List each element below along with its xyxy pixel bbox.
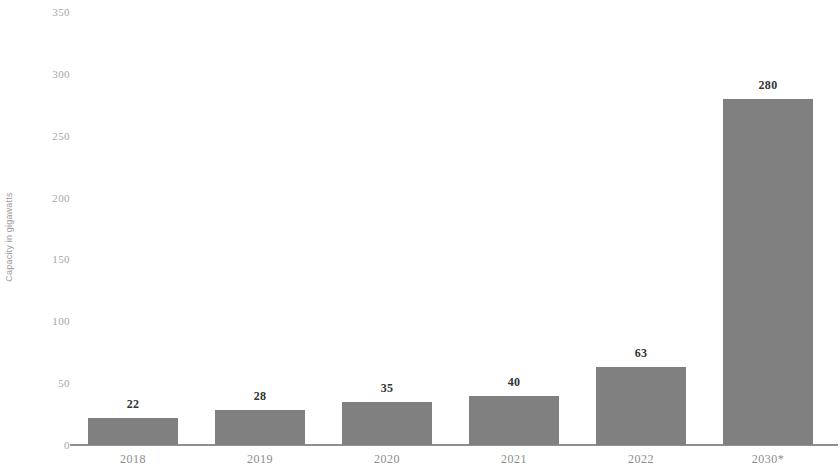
bar-2021[interactable] [469, 396, 559, 445]
bar-2020[interactable] [342, 402, 432, 445]
y-axis-tick-150: 150 [22, 253, 70, 265]
bar-value-label-2021: 40 [469, 375, 559, 390]
plot-area: 2228354063280 201820192020202120222030* [70, 0, 840, 474]
bar-2018[interactable] [88, 418, 178, 445]
bar-value-label-2022: 63 [596, 346, 686, 361]
y-axis-tick-300: 300 [22, 68, 70, 80]
y-axis-title: Capacity in gigawatts [0, 0, 18, 474]
bar-value-label-2020: 35 [342, 381, 432, 396]
y-axis-tick-250: 250 [22, 130, 70, 142]
bar-chart: Capacity in gigawatts 050100150200250300… [0, 0, 840, 474]
bar-2019[interactable] [215, 410, 305, 445]
y-axis-title-text: Capacity in gigawatts [4, 192, 14, 281]
x-axis-label-2021: 2021 [469, 452, 559, 467]
bar-value-label-2030*: 280 [723, 78, 813, 93]
bar-2022[interactable] [596, 367, 686, 445]
bar-value-label-2018: 22 [88, 397, 178, 412]
y-axis-tick-50: 50 [22, 377, 70, 389]
bar-2030*[interactable] [723, 99, 813, 445]
x-axis-label-2018: 2018 [88, 452, 178, 467]
y-axis-tick-200: 200 [22, 192, 70, 204]
x-axis-label-2020: 2020 [342, 452, 432, 467]
x-axis-label-2019: 2019 [215, 452, 305, 467]
y-axis-tick-0: 0 [22, 439, 70, 451]
bar-value-label-2019: 28 [215, 389, 305, 404]
x-axis-label-2030*: 2030* [723, 452, 813, 467]
x-axis-label-2022: 2022 [596, 452, 686, 467]
y-axis-tick-350: 350 [22, 6, 70, 18]
y-axis-tick-100: 100 [22, 315, 70, 327]
y-axis-tick-labels: 050100150200250300350 [22, 0, 70, 474]
